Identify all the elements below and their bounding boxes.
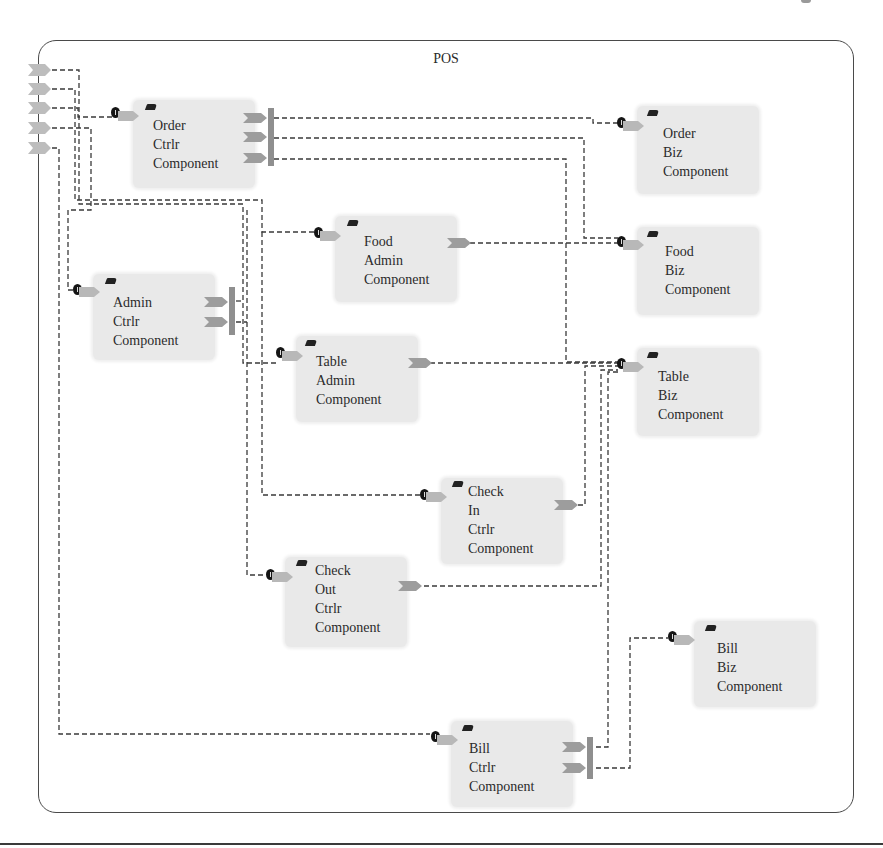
component-order-biz[interactable]: Order Biz Component bbox=[637, 106, 759, 194]
component-flag-icon bbox=[145, 104, 157, 110]
component-check-out-ctrlr[interactable]: Check Out Ctrlr Component bbox=[285, 557, 407, 647]
provided-port-icon bbox=[623, 361, 645, 373]
required-port-icon bbox=[243, 112, 267, 124]
component-label: Order Biz Component bbox=[663, 124, 728, 181]
component-label: Table Biz Component bbox=[658, 367, 723, 424]
component-bill-ctrlr[interactable]: Bill Ctrlr Component bbox=[451, 721, 573, 807]
required-port-icon bbox=[204, 316, 228, 328]
external-ports bbox=[28, 62, 54, 158]
required-port-icon bbox=[398, 580, 422, 592]
component-flag-icon bbox=[647, 110, 659, 116]
required-port-icon bbox=[562, 762, 586, 774]
component-label: Check Out Ctrlr Component bbox=[315, 561, 380, 637]
provided-port-icon bbox=[623, 120, 645, 132]
external-port-icon bbox=[28, 142, 51, 154]
component-food-admin[interactable]: Food Admin Component bbox=[335, 216, 457, 302]
required-port-icon bbox=[554, 499, 578, 511]
required-port-icon bbox=[204, 296, 228, 308]
component-label: Bill Ctrlr Component bbox=[469, 739, 534, 796]
wire-to-checkout bbox=[247, 210, 266, 575]
component-flag-icon bbox=[452, 481, 464, 487]
component-flag-icon bbox=[105, 278, 117, 284]
component-flag-icon bbox=[305, 340, 317, 346]
required-port-icon bbox=[447, 237, 471, 249]
component-label: Order Ctrlr Component bbox=[153, 116, 218, 173]
provided-port-icon bbox=[623, 239, 645, 251]
external-port-icon bbox=[28, 122, 51, 134]
component-table-biz[interactable]: Table Biz Component bbox=[637, 348, 759, 436]
provided-port-icon bbox=[437, 734, 459, 746]
external-port-icon bbox=[28, 83, 51, 95]
wire-checkin-to-tablebiz bbox=[578, 366, 618, 505]
page-bottom-rule bbox=[0, 843, 883, 845]
wire-order-to-orderbiz bbox=[274, 118, 618, 123]
component-flag-icon bbox=[347, 220, 359, 226]
component-check-in-ctrlr[interactable]: Check In Ctrlr Component bbox=[441, 478, 563, 564]
component-label: Food Biz Component bbox=[665, 242, 730, 299]
provided-port-icon bbox=[426, 491, 448, 503]
component-food-biz[interactable]: Food Biz Component bbox=[637, 227, 759, 315]
component-flag-icon bbox=[462, 725, 474, 731]
component-order-ctrlr[interactable]: Order Ctrlr Component bbox=[133, 100, 255, 188]
required-port-icon bbox=[562, 741, 586, 753]
required-port-icon bbox=[408, 357, 432, 369]
provided-port-icon bbox=[272, 571, 294, 583]
component-label: Bill Biz Component bbox=[717, 639, 782, 696]
wire-billctrlr-to-tablebiz bbox=[596, 372, 618, 747]
port-delegation-bar bbox=[229, 287, 235, 335]
component-flag-icon bbox=[647, 231, 659, 237]
component-label: Admin Ctrlr Component bbox=[113, 293, 178, 350]
component-admin-ctrlr[interactable]: Admin Ctrlr Component bbox=[93, 274, 215, 360]
component-table-admin[interactable]: Table Admin Component bbox=[296, 336, 418, 422]
component-label: Check In Ctrlr Component bbox=[468, 482, 533, 558]
provided-port-icon bbox=[674, 634, 696, 646]
wire-ext4 bbox=[52, 128, 91, 290]
required-port-icon bbox=[243, 131, 267, 143]
required-port-icon bbox=[243, 152, 267, 164]
provided-port-icon bbox=[320, 230, 342, 242]
provided-port-icon bbox=[118, 110, 140, 122]
port-delegation-bar bbox=[587, 737, 593, 779]
port-delegation-bar bbox=[268, 108, 274, 166]
component-flag-icon bbox=[647, 352, 659, 358]
wire-ext3 bbox=[52, 108, 116, 117]
provided-port-icon bbox=[79, 286, 101, 298]
provided-port-icon bbox=[282, 350, 304, 362]
component-flag-icon bbox=[705, 625, 717, 631]
external-port-icon bbox=[28, 102, 51, 114]
component-label: Food Admin Component bbox=[364, 232, 429, 289]
component-bill-biz[interactable]: Bill Biz Component bbox=[694, 621, 816, 707]
component-label: Table Admin Component bbox=[316, 352, 381, 409]
wire-billctrlr-to-billbiz bbox=[596, 638, 668, 768]
component-flag-icon bbox=[296, 560, 308, 566]
external-port-icon bbox=[28, 64, 51, 76]
